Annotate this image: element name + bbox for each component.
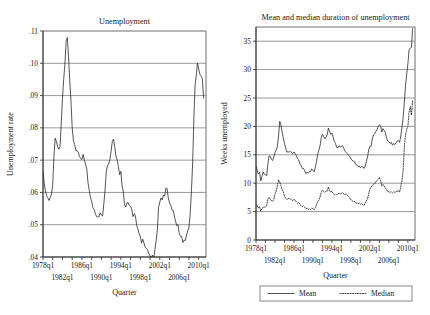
figure-canvas: Unemployment.04.05.06.07.08.09.10.11Unem… (0, 0, 430, 315)
chart-title: Mean and median duration of unemployment (261, 13, 410, 22)
y-tick-label: .11 (29, 27, 38, 36)
x-tick-label: 1990q1 (90, 273, 112, 282)
plot-frame (43, 31, 206, 257)
unemployment-rate-chart: Unemployment.04.05.06.07.08.09.10.11Unem… (0, 0, 215, 315)
y-tick-label: .06 (29, 188, 39, 197)
x-tick-label: 1998q1 (340, 256, 362, 265)
x-tick-label: 2006q1 (378, 256, 400, 265)
chart-panel-unemployment-rate: Unemployment.04.05.06.07.08.09.10.11Unem… (0, 0, 215, 315)
y-tick-label: .07 (29, 156, 39, 165)
x-tick-label: 1990q1 (302, 256, 324, 265)
y-tick-label: .05 (29, 220, 39, 229)
x-tick-label: 1982q1 (264, 256, 286, 265)
legend-label-median: Median (371, 289, 394, 298)
y-tick-label: 35 (244, 37, 252, 46)
x-tick-label: 2002q1 (149, 261, 171, 270)
y-tick-label: .08 (29, 123, 39, 132)
x-tick-label: 1978q1 (32, 261, 54, 270)
x-tick-label: 1982q1 (51, 273, 73, 282)
chart-panel-unemployment-duration: Mean and median duration of unemployment… (215, 0, 430, 315)
x-axis-label: Quarter (323, 271, 348, 280)
y-tick-label: 15 (244, 150, 252, 159)
y-tick-label: 5 (247, 207, 251, 216)
legend-label-mean: Mean (299, 289, 316, 298)
y-tick-label: 10 (244, 179, 252, 188)
y-tick-label: 20 (244, 122, 252, 131)
x-tick-label: 1998q1 (129, 273, 151, 282)
x-tick-label: 1994q1 (110, 261, 132, 270)
chart-title: Unemployment (99, 17, 151, 26)
x-tick-label: 2010q1 (397, 244, 419, 253)
x-tick-label: 1986q1 (283, 244, 305, 253)
x-axis-label: Quarter (112, 288, 137, 297)
series-line-mean (256, 29, 413, 181)
unemployment-duration-chart: Mean and median duration of unemployment… (215, 0, 430, 315)
x-tick-label: 1978q1 (245, 244, 267, 253)
x-tick-label: 1994q1 (321, 244, 343, 253)
y-tick-label: .10 (29, 59, 39, 68)
series-line-median (256, 101, 413, 211)
y-tick-label: .09 (29, 91, 39, 100)
x-tick-label: 1986q1 (71, 261, 93, 270)
x-tick-label: 2006q1 (168, 273, 190, 282)
x-tick-label: 2010q1 (188, 261, 210, 270)
x-tick-label: 2002q1 (359, 244, 381, 253)
y-axis-label: Unemployment rate (6, 112, 15, 176)
y-tick-label: 25 (244, 94, 252, 103)
y-axis-label: Weeks unemployed (220, 102, 229, 165)
y-tick-label: 30 (244, 65, 252, 74)
plot-frame (256, 27, 415, 240)
series-line-unemployment-rate (43, 37, 204, 258)
